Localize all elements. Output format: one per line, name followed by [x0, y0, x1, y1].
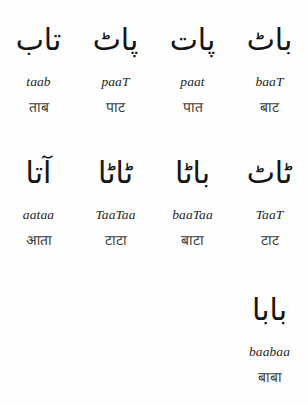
urdu-script: پات	[170, 12, 216, 68]
urdu-script: بابا	[252, 282, 287, 338]
word-cell: آتا aataa आता	[0, 133, 77, 270]
word-cell: باٹا baaTaa बाटा	[154, 133, 231, 270]
devanagari-script: बाटा	[181, 231, 204, 249]
transliteration: TaaT	[256, 207, 284, 223]
transliteration: baabaa	[249, 344, 290, 360]
urdu-script: آتا	[26, 145, 52, 201]
transliteration: baaT	[255, 74, 283, 90]
word-cell: باٹ baaT बाट	[231, 0, 308, 133]
word-cell: بابا baabaa बाबा	[231, 270, 308, 406]
word-cell: پات paat पात	[154, 0, 231, 133]
word-cell: ٹاٹا TaaTaa टाटा	[77, 133, 154, 270]
word-cell: تاب taab ताब	[0, 0, 77, 133]
transliteration: taab	[26, 74, 50, 90]
urdu-script: باٹا	[175, 145, 210, 201]
word-cell: پاٹ paaT पाट	[77, 0, 154, 133]
devanagari-script: बाबा	[258, 368, 282, 386]
transliteration: TaaTaa	[95, 207, 135, 223]
transliteration: paat	[180, 74, 204, 90]
urdu-script: باٹ	[247, 12, 293, 68]
devanagari-script: टाट	[261, 231, 279, 249]
word-row: آتا aataa आता ٹاٹا TaaTaa टाटा باٹا baaT…	[0, 133, 308, 270]
urdu-script: ٹاٹا	[98, 145, 133, 201]
transliteration: paaT	[101, 74, 129, 90]
word-grid: تاب taab ताब پاٹ paaT पाट پات paat पात ب…	[0, 0, 308, 406]
devanagari-script: पाट	[106, 98, 125, 116]
devanagari-script: ताब	[29, 98, 49, 116]
devanagari-script: पात	[183, 98, 203, 116]
transliteration: aataa	[23, 207, 54, 223]
transliteration: baaTaa	[172, 207, 213, 223]
word-cell: ٹاٹ TaaT टाट	[231, 133, 308, 270]
worksheet-page: تاب taab ताब پاٹ paaT पाट پات paat पात ب…	[0, 0, 308, 406]
devanagari-script: आता	[26, 231, 52, 249]
urdu-script: ٹاٹ	[247, 145, 293, 201]
word-row: بابا baabaa बाबा	[0, 270, 308, 406]
devanagari-script: टाटा	[105, 231, 127, 249]
word-row: تاب taab ताब پاٹ paaT पाट پات paat पात ب…	[0, 0, 308, 133]
urdu-script: تاب	[16, 12, 62, 68]
devanagari-script: बाट	[260, 98, 279, 116]
urdu-script: پاٹ	[93, 12, 139, 68]
